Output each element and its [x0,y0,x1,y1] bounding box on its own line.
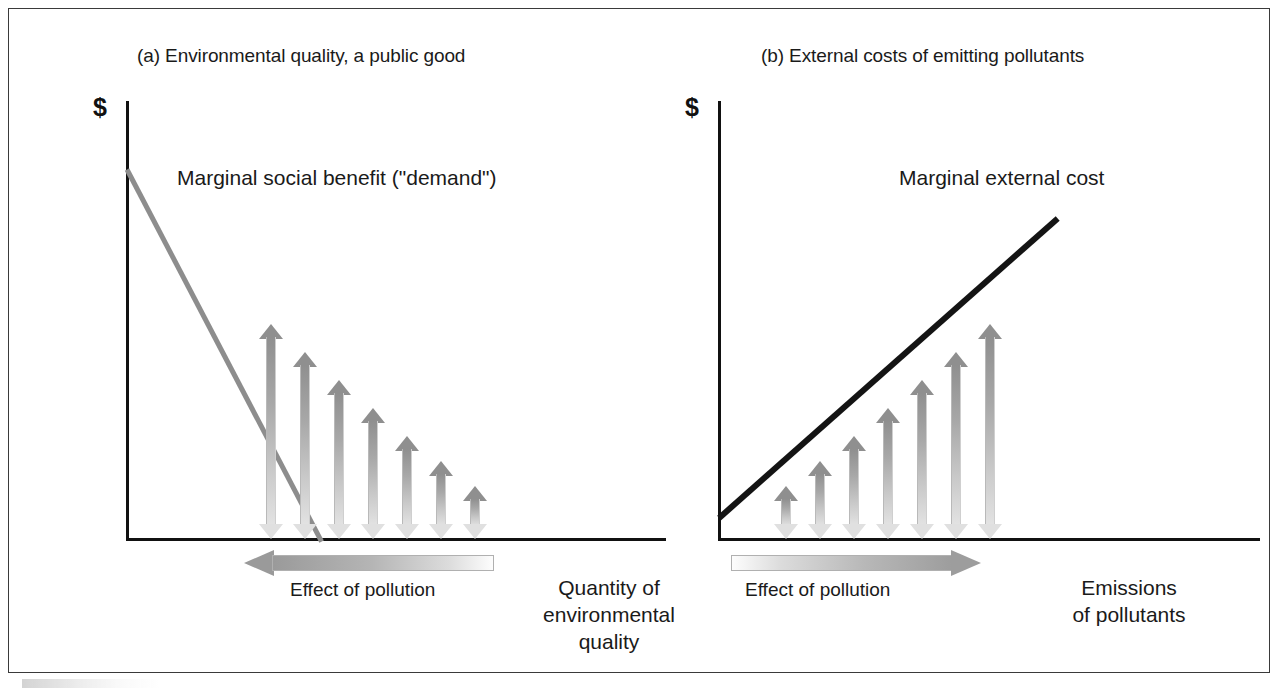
arrow-head-down-icon [808,524,832,539]
arrow-shaft [917,393,927,526]
gap-arrow [327,380,351,539]
arrow-head-down-icon [327,524,351,539]
x-axis-label-line: Emissions [1039,575,1219,602]
arrow-shaft [436,474,446,526]
panel-b-effect-of-pollution-label: Effect of pollution [745,579,890,601]
arrow-body [272,555,494,571]
panel-a-y-axis [126,101,129,541]
effect-of-pollution-arrow-left-icon [244,550,494,576]
panel-a-y-axis-currency-label: $ [93,95,107,120]
gap-arrow [808,461,832,539]
gap-arrow [910,380,934,539]
x-axis-label-line: environmental [519,602,699,629]
caption-scan-artifact [22,679,162,688]
arrow-shaft [781,499,791,526]
arrow-head-down-icon [429,524,453,539]
gap-arrow [259,324,283,539]
gap-arrow [774,486,798,539]
gap-arrow [978,324,1002,539]
arrow-shaft [985,337,995,526]
gap-arrow [842,436,866,539]
arrow-body [731,555,953,571]
effect-of-pollution-arrow-right-icon [731,550,981,576]
arrow-head-down-icon [944,524,968,539]
panel-a-title: (a) Environmental quality, a public good [137,45,465,67]
marginal-external-cost-label: Marginal external cost [899,166,1104,190]
arrow-shaft [368,421,378,526]
panel-b-y-axis-currency-label: $ [685,95,699,120]
panel-b-y-axis [718,101,721,541]
panel-b-x-axis-label: Emissions of pollutants [1039,575,1219,629]
gap-arrow [876,408,900,539]
arrow-shaft [402,449,412,526]
arrow-head-down-icon [361,524,385,539]
arrow-shaft [849,449,859,526]
gap-arrow [944,352,968,539]
arrow-shaft [334,393,344,526]
arrow-head-down-icon [463,524,487,539]
x-axis-label-line: quality [519,629,699,656]
gap-arrow [429,461,453,539]
arrow-head-down-icon [978,524,1002,539]
gap-arrow [361,408,385,539]
gap-arrow [463,486,487,539]
figure-frame: (a) Environmental quality, a public good… [8,8,1270,673]
gap-arrow [293,352,317,539]
x-axis-label-line: Quantity of [519,575,699,602]
arrow-head-down-icon [774,524,798,539]
panel-b-title: (b) External costs of emitting pollutant… [761,45,1084,67]
arrow-shaft [470,499,480,526]
arrow-shaft [266,337,276,526]
arrow-shaft [951,365,961,526]
figure-container: (a) Environmental quality, a public good… [0,0,1286,693]
arrow-head-right-icon [951,550,981,576]
x-axis-label-line: of pollutants [1039,602,1219,629]
arrow-head-down-icon [395,524,419,539]
arrow-head-down-icon [842,524,866,539]
marginal-social-benefit-label: Marginal social benefit ("demand") [177,166,497,190]
panel-a-x-axis-label: Quantity of environmental quality [519,575,699,656]
arrow-shaft [300,365,310,526]
arrow-shaft [815,474,825,526]
arrow-head-down-icon [910,524,934,539]
arrow-head-down-icon [876,524,900,539]
arrow-head-down-icon [259,524,283,539]
arrow-shaft [883,421,893,526]
arrow-head-down-icon [293,524,317,539]
gap-arrow [395,436,419,539]
panel-a-effect-of-pollution-label: Effect of pollution [290,579,435,601]
arrow-head-left-icon [244,550,274,576]
